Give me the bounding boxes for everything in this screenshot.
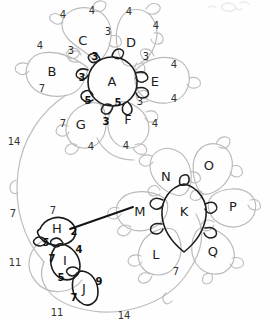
node-label-K: K <box>180 204 189 219</box>
weight-label: 4 <box>37 40 43 51</box>
node-label-A: A <box>107 74 116 89</box>
node-label-O: O <box>204 158 214 173</box>
node-label-G: G <box>76 117 86 132</box>
weight-label: 4 <box>60 9 66 20</box>
weight-label: 4 <box>88 141 94 152</box>
node-label-C: C <box>78 33 87 48</box>
weight-label: 4 <box>171 59 177 70</box>
weight-label: 3 <box>143 51 149 62</box>
node-label-Q: Q <box>208 244 218 259</box>
node-label-L: L <box>152 247 160 262</box>
weight-label: 4 <box>89 5 95 16</box>
weight-label: 4 <box>76 244 83 255</box>
weight-label: 9 <box>96 276 103 287</box>
weight-label: 3 <box>68 45 74 56</box>
weight-label: 5 <box>85 95 92 106</box>
weight-label: 14 <box>118 310 131 321</box>
weight-label: 7 <box>49 253 56 264</box>
node-label-P: P <box>229 199 237 214</box>
weight-label: 5 <box>43 237 50 248</box>
weight-labels: 4 4 4 4 4 3 3 3 3 3 4 4 3 5 5 7 7 3 4 4 … <box>8 5 180 321</box>
node-label-H: H <box>52 221 62 236</box>
weight-label: 7 <box>60 118 66 129</box>
weight-label: 7 <box>173 266 179 277</box>
node-label-E: E <box>151 74 159 89</box>
node-label-I: I <box>63 253 67 268</box>
node-N[interactable]: N <box>139 148 200 196</box>
weight-label: 3 <box>103 116 110 127</box>
node-label-M: M <box>134 204 145 219</box>
weight-label: 5 <box>115 97 122 108</box>
node-label-J: J <box>81 281 86 296</box>
node-label-N: N <box>161 169 171 184</box>
weight-label: 3 <box>137 96 143 107</box>
weight-label: 2 <box>71 226 78 237</box>
node-H[interactable]: H <box>34 217 76 245</box>
node-P[interactable]: P <box>201 189 261 231</box>
node-D[interactable]: D <box>116 4 163 74</box>
weight-label: 3 <box>92 51 99 62</box>
diagram-canvas: C D B E F <box>0 0 274 321</box>
top-right-smudge <box>208 2 249 12</box>
weight-label: 7 <box>39 83 45 94</box>
weight-label: 14 <box>8 136 21 147</box>
weight-label: 3 <box>105 26 111 37</box>
weight-label: 7 <box>10 208 16 219</box>
weight-label: 4 <box>123 140 129 151</box>
weight-label: 4 <box>152 118 158 129</box>
weight-label: 4 <box>153 20 159 31</box>
weight-label: 11 <box>51 307 64 318</box>
node-F[interactable]: F <box>108 102 158 155</box>
weight-label: 7 <box>50 205 56 216</box>
weight-label: 3 <box>79 72 86 83</box>
long-arc-bottom <box>42 262 188 312</box>
weight-label: 7 <box>71 292 78 303</box>
weight-label: 4 <box>126 6 132 17</box>
weight-label: 5 <box>58 272 65 283</box>
hand-drawn-graph: C D B E F <box>0 0 274 321</box>
weight-label: 11 <box>9 257 22 268</box>
node-label-D: D <box>126 35 136 50</box>
long-arc-right <box>188 214 202 272</box>
weight-label: 4 <box>171 93 177 104</box>
node-label-B: B <box>47 64 56 79</box>
